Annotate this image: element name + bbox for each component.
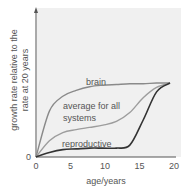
y-tick-0: 0 <box>26 152 31 162</box>
y-axis-label-line2: rate at 20 years <box>20 48 30 111</box>
average-label-line2: systems <box>63 113 97 123</box>
x-tick-15: 15 <box>134 161 144 171</box>
x-tick-labels: 05101520 <box>33 161 179 171</box>
average-label-line1: average for all <box>63 101 120 111</box>
y-axis-label-line1: growth rate relative to the <box>9 29 19 131</box>
y-axis-label: growth rate relative to the rate at 20 y… <box>9 29 30 131</box>
x-axis-label: age/years <box>86 176 126 186</box>
x-tick-0: 0 <box>33 161 38 171</box>
brain-label: brain <box>86 77 106 87</box>
x-tick-20: 20 <box>169 161 179 171</box>
reproductive-label: reproductive <box>62 139 112 149</box>
growth-chart: brain average for all systems reproducti… <box>0 0 191 194</box>
x-tick-10: 10 <box>100 161 110 171</box>
x-tick-5: 5 <box>68 161 73 171</box>
